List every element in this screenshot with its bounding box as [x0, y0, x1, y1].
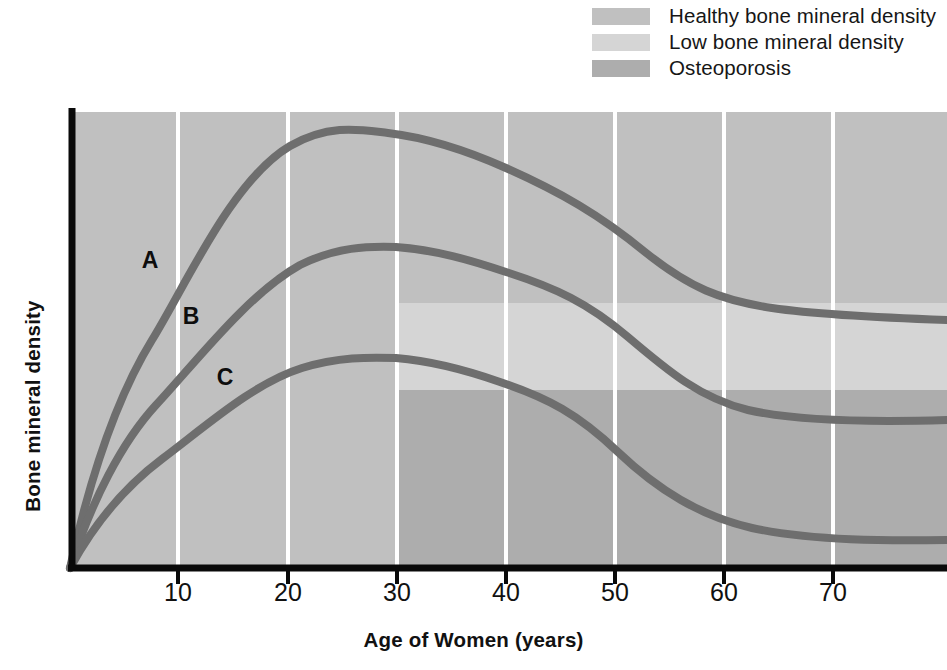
plot-area: 10 20 30 40 50 60 70 A B C	[0, 0, 947, 670]
curve-label-a: A	[137, 247, 163, 274]
x-tick-label-20: 20	[258, 578, 318, 607]
chart-svg	[0, 0, 947, 670]
x-tick-label-60: 60	[694, 578, 754, 607]
x-tick-label-50: 50	[585, 578, 645, 607]
curve-label-b: B	[178, 303, 204, 330]
x-tick-label-40: 40	[476, 578, 536, 607]
x-tick-label-30: 30	[367, 578, 427, 607]
x-tick-label-10: 10	[148, 578, 208, 607]
x-axis-title: Age of Women (years)	[0, 628, 947, 652]
curve-label-c: C	[212, 364, 238, 391]
bone-mineral-density-figure: Healthy bone mineral density Low bone mi…	[0, 0, 947, 670]
y-axis-title: Bone mineral density	[21, 251, 45, 561]
x-tick-label-70: 70	[803, 578, 863, 607]
